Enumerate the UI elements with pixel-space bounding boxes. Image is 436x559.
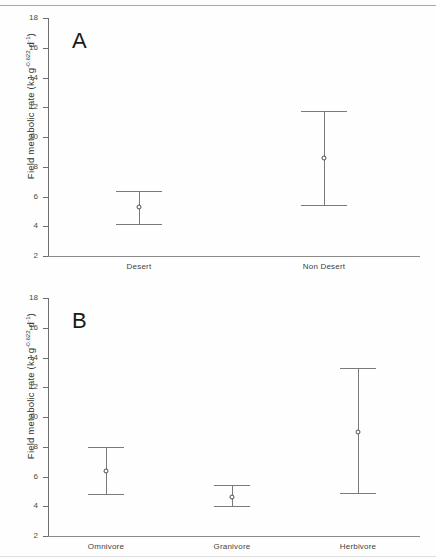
error-bar-cap-upper [214,485,250,486]
error-bar-cap-lower [116,224,162,225]
y-tick-label: 14 [10,74,38,82]
y-tick-mark [43,107,48,108]
panel-a-letter: A [72,28,87,54]
y-tick-label: 8 [10,443,38,451]
y-tick-label: 8 [10,163,38,171]
panel-b-y-axis [48,298,49,536]
data-point-marker [230,494,235,499]
y-tick-mark [43,447,48,448]
y-tick-label: 10 [10,133,38,141]
y-tick-mark [43,226,48,227]
y-tick-mark [43,197,48,198]
error-bar-cap-upper [301,111,347,112]
scan-artifact-bottom [0,556,436,557]
y-tick-mark [43,256,48,257]
panel-a-x-axis [48,256,420,257]
y-tick-mark [43,506,48,507]
panel-b: B Field metabolic rate (kJ g-0.622 d-1) … [0,290,436,555]
error-bar-cap-lower [301,205,347,206]
panel-b-letter: B [72,308,87,334]
x-axis-category-label: Omnivore [88,542,124,551]
y-tick-label: 4 [10,502,38,510]
y-tick-label: 6 [10,193,38,201]
error-bar-cap-lower [214,506,250,507]
x-axis-category-label: Desert [127,262,152,271]
y-tick-mark [43,78,48,79]
data-point-marker [104,468,109,473]
error-bar-cap-upper [340,368,376,369]
y-tick-mark [43,536,48,537]
y-tick-label: 6 [10,473,38,481]
error-bar-cap-lower [340,493,376,494]
y-tick-mark [43,167,48,168]
error-bar-cap-upper [116,191,162,192]
figure-container: A Field metabolic rate (kJ g-0.622 d-1) … [0,0,436,559]
data-point-marker [322,155,327,160]
error-bar-cap-upper [88,447,124,448]
y-tick-mark [43,48,48,49]
y-tick-mark [43,387,48,388]
panel-a-y-axis [48,18,49,256]
y-tick-label: 10 [10,413,38,421]
y-tick-label: 4 [10,222,38,230]
y-tick-mark [43,477,48,478]
error-bar-cap-lower [88,494,124,495]
x-axis-category-label: Non Desert [303,262,345,271]
scan-artifact-top [0,5,436,6]
data-point-marker [137,204,142,209]
y-tick-mark [43,358,48,359]
y-tick-label: 14 [10,354,38,362]
y-tick-label: 2 [10,252,38,260]
y-tick-label: 2 [10,532,38,540]
y-tick-label: 18 [10,294,38,302]
x-axis-category-label: Granivore [214,542,251,551]
y-tick-mark [43,328,48,329]
panel-b-x-axis [48,536,420,537]
y-tick-label: 12 [10,383,38,391]
y-tick-mark [43,137,48,138]
y-tick-mark [43,298,48,299]
y-tick-label: 16 [10,324,38,332]
data-point-marker [356,429,361,434]
y-tick-label: 12 [10,103,38,111]
y-tick-mark [43,417,48,418]
y-tick-label: 16 [10,44,38,52]
y-tick-label: 18 [10,14,38,22]
x-axis-category-label: Herbivore [340,542,376,551]
y-tick-mark [43,18,48,19]
panel-a: A Field metabolic rate (kJ g-0.622 d-1) … [0,10,436,275]
